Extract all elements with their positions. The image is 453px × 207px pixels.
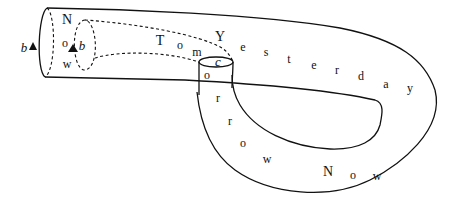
tom-yesterday-letter: r — [335, 64, 339, 76]
tom-yesterday-letter: m — [192, 46, 201, 58]
inner-b-arrow-icon — [68, 44, 78, 52]
now-vertical-letter: N — [62, 14, 72, 26]
wormhole-diagram — [0, 0, 453, 207]
inner-loop-label-b: b — [79, 40, 86, 52]
tomorrow-now-letter: w — [373, 170, 382, 182]
outer-loop-right — [197, 90, 436, 192]
tomorrow-now-letter: N — [323, 166, 333, 178]
tom-yesterday-letter: Y — [215, 31, 225, 43]
tom-yesterday-letter: y — [407, 82, 413, 94]
tube-left-end-dashed — [45, 8, 54, 77]
outer-b-arrow-icon — [29, 42, 37, 50]
tomorrow-now-letter: o — [204, 69, 210, 81]
dashed-path-bottom — [95, 53, 199, 62]
now-vertical-letter: w — [63, 58, 72, 70]
tomorrow-now-letter: o — [350, 169, 356, 181]
throat-label-c: c — [215, 56, 221, 68]
tom-yesterday-letter: t — [287, 53, 290, 65]
tube-bottom-edge — [45, 75, 382, 149]
tom-yesterday-letter: s — [264, 46, 269, 58]
tom-yesterday-letter: e — [311, 59, 316, 71]
outer-loop-label-b: b — [21, 42, 28, 54]
tom-yesterday-letter: T — [156, 35, 165, 47]
tom-yesterday-letter: e — [240, 41, 245, 53]
tomorrow-now-letter: r — [228, 115, 232, 127]
now-vertical-letter: o — [62, 37, 68, 49]
tomorrow-now-letter: w — [263, 153, 272, 165]
tube-left-end-solid — [39, 8, 47, 77]
tom-yesterday-letter: a — [383, 78, 388, 90]
tom-yesterday-letter: d — [358, 70, 364, 82]
tomorrow-now-letter: o — [240, 137, 246, 149]
tom-yesterday-letter: o — [177, 39, 183, 51]
tomorrow-now-letter: r — [216, 92, 220, 104]
